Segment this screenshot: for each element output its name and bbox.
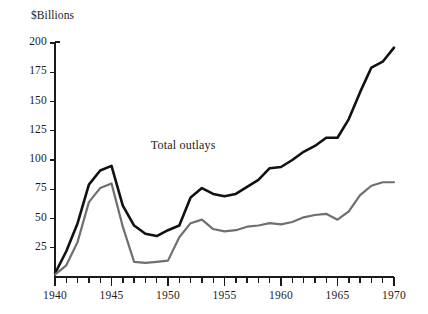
chart-container: $Billions 255075100125150175200 19401945… [0,0,428,314]
x-tick-label: 1970 [371,289,417,301]
series-line-total-outlays [55,48,394,274]
x-tick-label: 1960 [258,289,304,301]
y-tick-label: 75 [13,181,47,193]
y-tick-label: 150 [13,94,47,106]
y-tick-label: 50 [13,211,47,223]
series-group [55,48,394,275]
y-tick-label: 175 [13,64,47,76]
y-tick-label: 100 [13,152,47,164]
total-outlays-label: Total outlays [151,138,216,153]
x-tick-label: 1940 [32,289,78,301]
x-tick-label: 1965 [315,289,361,301]
x-tick-label: 1945 [89,289,135,301]
y-tick-label: 25 [13,240,47,252]
plot-canvas [0,0,428,314]
y-tick-label: 200 [13,35,47,47]
y-tick-label: 125 [13,123,47,135]
x-tick-label: 1955 [202,289,248,301]
axes-group [50,42,394,286]
x-tick-label: 1950 [145,289,191,301]
